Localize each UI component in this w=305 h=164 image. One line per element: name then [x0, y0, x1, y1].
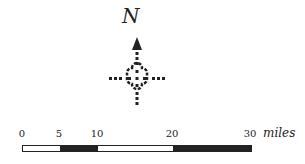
tick-label-30: 30 — [244, 128, 257, 140]
scale-segment-5-10 — [60, 146, 98, 151]
scale-segment-20-30 — [173, 146, 251, 151]
tick-label-20: 20 — [166, 128, 179, 140]
scale-segment-0-5 — [23, 146, 60, 151]
tick-label-5: 5 — [56, 128, 62, 140]
scale-bar: 0 5 10 20 30 miles — [0, 120, 305, 164]
compass-rose: N — [0, 0, 305, 120]
unit-label: miles — [263, 126, 295, 140]
tick-label-10: 10 — [91, 128, 104, 140]
north-arrow-icon — [0, 0, 305, 120]
tick-label-0: 0 — [19, 128, 25, 140]
scale-bar-track — [22, 145, 252, 152]
scale-segment-10-20 — [98, 146, 173, 151]
